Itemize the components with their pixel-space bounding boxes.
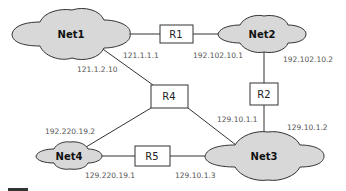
addr-net3-r5: 129.10.1.3 [175, 171, 216, 180]
net1-label: Net1 [58, 29, 85, 40]
network-diagram: Net1 Net2 Net3 Net4 R1 R2 R4 R5 121.1.1.… [0, 0, 346, 191]
link-r4-net3 [188, 108, 236, 145]
addr-net1-r4: 121.1.2.10 [77, 65, 118, 74]
addr-net3-r2: 129.10.1.2 [287, 123, 328, 132]
addr-net1-r1: 121.1.1.1 [123, 51, 159, 60]
cut-off-caption [8, 188, 28, 191]
net3-label: Net3 [251, 151, 278, 162]
net2-label: Net2 [249, 29, 276, 40]
addr-net2-r2: 192.102.10.2 [283, 55, 333, 64]
diagram-canvas: Net1 Net2 Net3 Net4 R1 R2 R4 R5 121.1.1.… [0, 0, 346, 191]
addr-net4-r4: 192.220.19.2 [45, 127, 95, 136]
r5-label: R5 [145, 151, 158, 162]
r4-label: R4 [162, 91, 175, 102]
link-r4-net4 [86, 108, 151, 147]
addr-net3-r4: 129.10.1.1 [217, 115, 258, 124]
r1-label: R1 [169, 29, 182, 40]
addr-net2-r1: 192.102.10.1 [193, 51, 243, 60]
r2-label: R2 [257, 89, 270, 100]
net4-label: Net4 [56, 151, 83, 162]
addr-net4-r5: 129.220.19.1 [85, 171, 135, 180]
